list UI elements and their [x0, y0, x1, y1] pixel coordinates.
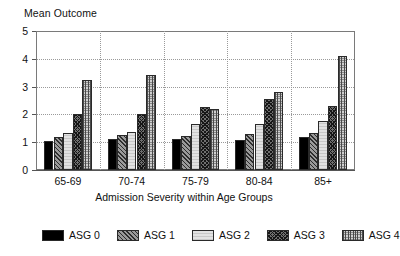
- x-axis-title: Admission Severity within Age Groups: [0, 191, 368, 203]
- legend-swatch-asg0: [42, 230, 64, 241]
- bar-65-69-asg3: [73, 114, 83, 170]
- x-label-65-69: 65-69: [36, 175, 100, 187]
- bar-70-74-asg2: [127, 132, 137, 170]
- bar-85plus-asg2: [318, 121, 328, 170]
- bar-70-74-asg3: [137, 114, 147, 170]
- bar-80-84-asg2: [255, 124, 265, 170]
- bar-70-74-asg0: [108, 139, 118, 170]
- legend-swatch-asg3: [267, 230, 289, 241]
- y-tick-label-0: 0: [2, 165, 28, 175]
- y-tick-label-5: 5: [2, 26, 28, 36]
- bar-65-69-asg0: [44, 141, 54, 170]
- y-tick-label-3: 3: [2, 82, 28, 92]
- x-label-80-84: 80-84: [227, 175, 291, 187]
- bar-65-69-asg1: [54, 137, 64, 170]
- bar-75-79-asg4: [210, 109, 220, 170]
- bar-80-84-asg0: [235, 140, 245, 170]
- chart-legend: ASG 0ASG 1ASG 2ASG 3ASG 4: [42, 226, 342, 244]
- y-tick-label-2: 2: [2, 109, 28, 119]
- bar-80-84-asg1: [245, 134, 255, 170]
- legend-label-asg2: ASG 2: [219, 229, 250, 241]
- legend-item-asg2: ASG 2: [192, 229, 250, 241]
- legend-label-asg3: ASG 3: [294, 229, 325, 241]
- legend-item-asg4: ASG 4: [342, 229, 400, 241]
- bar-75-79-asg1: [181, 136, 191, 170]
- legend-swatch-asg2: [192, 230, 214, 241]
- bar-70-74-asg4: [146, 75, 156, 170]
- bar-80-84-asg4: [274, 92, 284, 170]
- bar-80-84-asg3: [264, 99, 274, 170]
- x-label-75-79: 75-79: [164, 175, 228, 187]
- legend-swatch-asg1: [117, 230, 139, 241]
- legend-swatch-asg4: [342, 230, 364, 241]
- x-label-85plus: 85+: [291, 175, 355, 187]
- bar-85plus-asg0: [299, 137, 309, 170]
- legend-label-asg0: ASG 0: [69, 229, 100, 241]
- bar-65-69-asg2: [63, 133, 73, 170]
- legend-item-asg3: ASG 3: [267, 229, 325, 241]
- bar-85plus-asg1: [309, 133, 319, 170]
- bar-75-79-asg2: [191, 124, 201, 170]
- bars-layer: [36, 31, 355, 170]
- bar-75-79-asg3: [200, 107, 210, 170]
- legend-item-asg1: ASG 1: [117, 229, 175, 241]
- y-tick-label-4: 4: [2, 54, 28, 64]
- bar-75-79-asg0: [172, 139, 182, 170]
- bar-85plus-asg4: [338, 56, 348, 170]
- y-tick-0: [32, 170, 36, 171]
- legend-item-asg0: ASG 0: [42, 229, 100, 241]
- x-label-70-74: 70-74: [100, 175, 164, 187]
- x-axis-line: [36, 170, 355, 171]
- bar-70-74-asg1: [117, 135, 127, 170]
- y-tick-label-1: 1: [2, 137, 28, 147]
- bar-85plus-asg3: [328, 106, 338, 170]
- legend-label-asg1: ASG 1: [144, 229, 175, 241]
- legend-label-asg4: ASG 4: [369, 229, 400, 241]
- bar-65-69-asg4: [82, 80, 92, 170]
- y-axis-title: Mean Outcome: [24, 7, 97, 19]
